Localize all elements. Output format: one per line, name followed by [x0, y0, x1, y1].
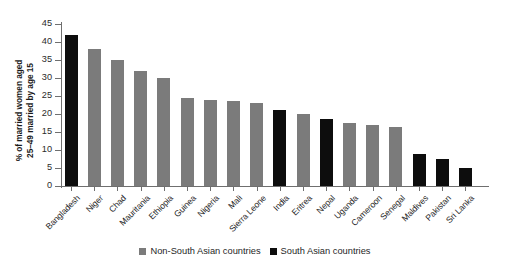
x-axis-tick	[210, 186, 211, 191]
x-axis-tick-label: Nepal	[315, 193, 338, 216]
bar	[273, 110, 286, 186]
y-axis-tick-label: 45	[26, 18, 52, 28]
legend-label: South Asian countries	[281, 246, 371, 256]
x-axis-tick-label: Bangladesh	[44, 193, 82, 231]
bar	[157, 78, 170, 186]
y-axis-tick-label: 10	[26, 144, 52, 154]
bar	[250, 103, 263, 186]
x-axis-tick-label: Niger	[84, 193, 105, 214]
x-axis-tick-label: Guinea	[172, 193, 198, 219]
bar	[88, 49, 101, 186]
x-axis-tick-label: Sri Lanka	[444, 193, 476, 225]
bar	[204, 100, 217, 186]
y-axis-tick	[55, 150, 61, 151]
x-axis-tick	[442, 186, 443, 191]
bar	[134, 71, 147, 186]
y-axis-tick	[55, 132, 61, 133]
x-axis-tick	[303, 186, 304, 191]
bar	[181, 98, 194, 186]
y-axis-tick-label: 20	[26, 108, 52, 118]
x-axis-tick-label: India	[271, 193, 291, 213]
x-axis-tick-label: Ethiopia	[146, 193, 174, 221]
y-axis-tick	[55, 114, 61, 115]
x-axis-tick-label: Sierra Leone	[227, 193, 268, 234]
y-axis-tick	[55, 24, 61, 25]
legend-item: South Asian countries	[270, 246, 371, 256]
legend-label: Non-South Asian countries	[150, 246, 260, 256]
y-axis-tick-label: 0	[26, 180, 52, 190]
y-axis-tick	[55, 96, 61, 97]
bar	[389, 127, 402, 186]
x-axis-tick	[71, 186, 72, 191]
bar	[436, 159, 449, 186]
x-axis-tick	[117, 186, 118, 191]
bar	[65, 35, 78, 186]
y-axis-tick	[55, 78, 61, 79]
y-axis-tick-label: 15	[26, 126, 52, 136]
y-axis-tick-label: 25	[26, 90, 52, 100]
x-axis-tick-label: Senegal	[378, 193, 407, 222]
bar	[343, 123, 356, 186]
x-axis-tick	[94, 186, 95, 191]
bar	[459, 168, 472, 186]
bar-chart: % of married women aged 25–49 married by…	[0, 0, 510, 266]
y-axis-tick	[55, 60, 61, 61]
y-axis-tick-label: 35	[26, 54, 52, 64]
y-axis-tick	[55, 168, 61, 169]
legend-swatch-icon	[139, 248, 146, 255]
legend-swatch-icon	[270, 248, 277, 255]
y-axis-tick-label: 5	[26, 162, 52, 172]
x-axis-tick	[396, 186, 397, 191]
bar	[320, 119, 333, 186]
bar	[366, 125, 379, 186]
x-axis-tick-label: Mauritania	[117, 193, 152, 228]
y-axis-tick	[55, 186, 61, 187]
x-axis-tick-label: Maldives	[400, 193, 430, 223]
x-axis-tick-label: Eritrea	[290, 193, 314, 217]
x-axis-tick	[373, 186, 374, 191]
x-axis-tick-label: Cameroon	[349, 193, 384, 228]
x-axis-line	[61, 186, 489, 187]
x-axis-tick-label: Nigeria	[195, 193, 221, 219]
y-axis-tick-label: 40	[26, 36, 52, 46]
x-axis-tick	[465, 186, 466, 191]
x-axis-tick	[280, 186, 281, 191]
x-axis-tick	[326, 186, 327, 191]
bar	[297, 114, 310, 186]
x-axis-tick	[141, 186, 142, 191]
bar-series-container	[62, 24, 482, 186]
x-axis-tick-label: Mali	[227, 193, 245, 211]
legend-item: Non-South Asian countries	[139, 246, 260, 256]
bar	[227, 101, 240, 186]
x-axis-tick	[187, 186, 188, 191]
bar	[111, 60, 124, 186]
chart-legend: Non-South Asian countriesSouth Asian cou…	[0, 246, 510, 256]
x-axis-tick-label: Chad	[107, 193, 128, 214]
x-axis-tick	[419, 186, 420, 191]
x-axis-tick	[233, 186, 234, 191]
y-axis-tick	[55, 42, 61, 43]
x-axis-tick	[164, 186, 165, 191]
y-axis-tick-label: 30	[26, 72, 52, 82]
bar	[413, 154, 426, 186]
x-axis-tick	[349, 186, 350, 191]
x-axis-tick-label: Pakistan	[423, 193, 453, 223]
x-axis-tick-label: Uganda	[333, 193, 361, 221]
x-axis-tick	[257, 186, 258, 191]
